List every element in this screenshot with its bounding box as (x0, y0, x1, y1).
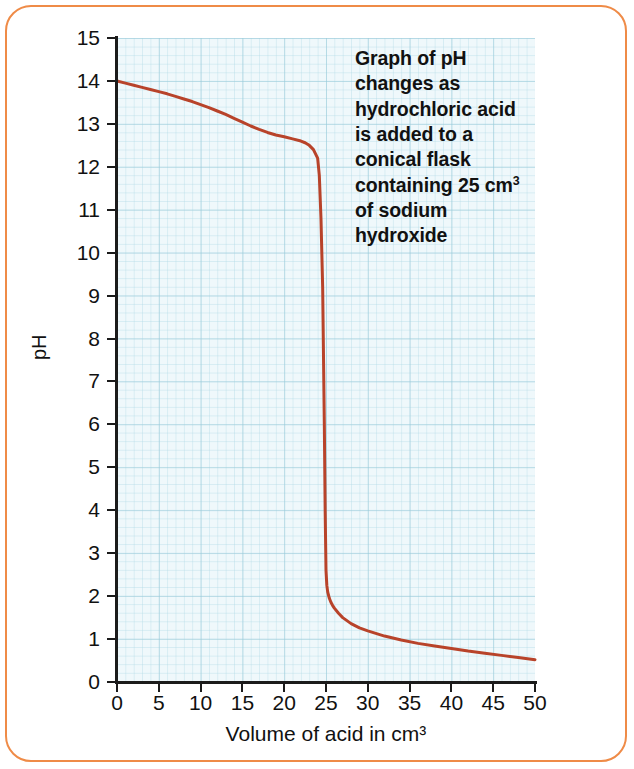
x-tick-label-50: 50 (505, 692, 565, 713)
y-tick-5 (107, 466, 116, 468)
y-tick-1 (107, 638, 116, 640)
y-tick-label-15: 15 (40, 27, 100, 48)
y-tick-label-3: 3 (40, 542, 100, 563)
y-tick-9 (107, 295, 116, 297)
y-tick-label-0: 0 (40, 671, 100, 692)
y-tick-6 (107, 423, 116, 425)
y-tick-label-10: 10 (40, 242, 100, 263)
ph-titration-figure: 0123456789101112131415 05101520253035404… (0, 0, 634, 769)
y-tick-label-12: 12 (40, 156, 100, 177)
y-tick-label-6: 6 (40, 413, 100, 434)
y-tick-label-11: 11 (40, 199, 100, 220)
x-axis-title: Volume of acid in cm³ (117, 722, 535, 746)
y-tick-15 (107, 37, 116, 39)
y-tick-label-7: 7 (40, 370, 100, 391)
y-tick-label-5: 5 (40, 456, 100, 477)
y-tick-10 (107, 252, 116, 254)
annotation-line-8: hydroxide (355, 223, 530, 248)
y-axis-title: pH (28, 334, 51, 360)
annotation-line-1: Graph of pH (355, 46, 530, 71)
chart-annotation-text: Graph of pHchanges ashydrochloric acidis… (355, 46, 530, 249)
y-tick-4 (107, 509, 116, 511)
y-tick-3 (107, 552, 116, 554)
y-tick-13 (107, 123, 116, 125)
y-tick-12 (107, 166, 116, 168)
y-tick-label-4: 4 (40, 499, 100, 520)
annotation-superscript: 3 (513, 173, 520, 187)
y-tick-8 (107, 338, 116, 340)
annotation-line-3: hydrochloric acid (355, 97, 530, 122)
y-tick-label-9: 9 (40, 285, 100, 306)
y-tick-0 (107, 681, 116, 683)
y-axis-line (115, 36, 118, 684)
y-tick-14 (107, 80, 116, 82)
annotation-line-5: conical flask (355, 147, 530, 172)
y-tick-11 (107, 209, 116, 211)
y-tick-label-1: 1 (40, 628, 100, 649)
annotation-line-4: is added to a (355, 122, 530, 147)
y-tick-2 (107, 595, 116, 597)
annotation-line-2: changes as (355, 71, 530, 96)
figure-page: 0123456789101112131415 05101520253035404… (0, 0, 634, 769)
y-tick-label-2: 2 (40, 585, 100, 606)
y-tick-label-13: 13 (40, 113, 100, 134)
y-tick-7 (107, 380, 116, 382)
y-tick-label-14: 14 (40, 70, 100, 91)
annotation-line-6: containing 25 cm3 (355, 173, 530, 198)
annotation-line-7: of sodium (355, 198, 530, 223)
